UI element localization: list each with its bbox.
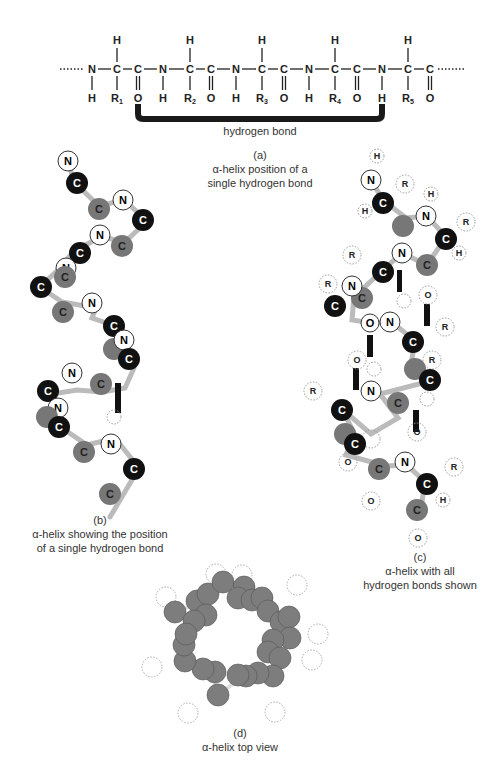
svg-text:C: C (404, 63, 412, 75)
caption-d: (d) α-helix top view (160, 726, 320, 754)
svg-text:O: O (414, 533, 421, 543)
svg-text:H: H (258, 34, 266, 46)
svg-text:C: C (338, 404, 346, 416)
svg-text:O: O (367, 496, 374, 506)
hydrogen-bond-bracket (138, 104, 382, 119)
svg-text:C: C (379, 266, 387, 278)
svg-text:R: R (349, 250, 356, 260)
svg-text:N: N (348, 280, 356, 292)
svg-text:N: N (305, 63, 313, 75)
svg-text:C: C (73, 177, 81, 189)
svg-text:C: C (44, 385, 52, 397)
svg-text:C: C (113, 63, 121, 75)
svg-text:H: H (456, 248, 463, 258)
svg-text:C: C (413, 504, 421, 516)
alpha-helix-figure: N C C N C C N C N C C C N C N C C N C N … (0, 0, 499, 783)
svg-text:O: O (426, 92, 435, 104)
svg-text:O: O (280, 92, 289, 104)
svg-text:R1: R1 (111, 92, 123, 105)
svg-text:H: H (88, 92, 96, 104)
caption-a: (a) α-helix position of a single hydroge… (170, 148, 350, 190)
svg-text:C: C (331, 300, 339, 312)
svg-text:H: H (232, 92, 240, 104)
svg-text:N: N (68, 367, 76, 379)
svg-text:N: N (96, 229, 104, 241)
svg-text:C: C (118, 240, 126, 252)
svg-text:N: N (119, 194, 127, 206)
svg-text:C: C (37, 281, 45, 293)
svg-text:R: R (429, 355, 436, 365)
svg-text:C: C (134, 63, 142, 75)
helix-top-view (142, 564, 328, 723)
svg-text:N: N (401, 456, 409, 468)
svg-text:C: C (394, 397, 402, 409)
svg-text:H: H (305, 92, 313, 104)
chain-atom: N (88, 63, 96, 75)
svg-text:H: H (113, 34, 121, 46)
svg-text:N: N (398, 247, 406, 259)
svg-text:C: C (331, 63, 339, 75)
svg-text:N: N (378, 63, 386, 75)
svg-text:H: H (159, 92, 167, 104)
svg-text:C: C (95, 203, 103, 215)
svg-text:C: C (423, 478, 431, 490)
svg-text:O: O (353, 92, 362, 104)
svg-text:C: C (442, 233, 450, 245)
svg-text:O: O (344, 457, 351, 467)
svg-text:H: H (378, 92, 386, 104)
svg-text:O: O (413, 427, 420, 437)
svg-text:C: C (207, 63, 215, 75)
svg-text:C: C (55, 421, 63, 433)
svg-text:R: R (402, 179, 409, 189)
svg-text:R2: R2 (184, 92, 196, 105)
svg-text:N: N (367, 174, 375, 186)
hydrogen-bond-label: hydrogen bond (200, 124, 320, 138)
svg-text:H: H (331, 34, 339, 46)
svg-text:C: C (110, 320, 118, 332)
svg-text:N: N (88, 297, 96, 309)
svg-text:C: C (351, 438, 359, 450)
svg-text:R5: R5 (402, 92, 414, 105)
svg-text:R4: R4 (329, 92, 341, 105)
svg-text:N: N (159, 63, 167, 75)
svg-text:N: N (386, 316, 394, 328)
svg-text:C: C (97, 378, 105, 390)
svg-text:R: R (310, 386, 317, 396)
svg-text:C: C (426, 374, 434, 386)
svg-text:C: C (80, 446, 88, 458)
svg-text:R: R (442, 322, 449, 332)
svg-text:H: H (404, 34, 412, 46)
svg-text:C: C (379, 197, 387, 209)
svg-text:O: O (207, 92, 216, 104)
svg-text:C: C (353, 63, 361, 75)
svg-text:C: C (409, 336, 417, 348)
svg-text:H: H (374, 151, 381, 161)
svg-text:O: O (134, 92, 143, 104)
svg-text:N: N (367, 385, 375, 397)
svg-text:N: N (232, 63, 240, 75)
svg-text:C: C (139, 214, 147, 226)
svg-text:H: H (428, 189, 435, 199)
svg-text:C: C (76, 247, 84, 259)
svg-text:C: C (258, 63, 266, 75)
svg-text:H: H (362, 206, 369, 216)
svg-text:C: C (375, 463, 383, 475)
svg-text:H: H (186, 34, 194, 46)
helix-b: N C C N C C N C N C C C N C N C C N C N … (30, 151, 154, 517)
helix-c: N C N C C N C C C N O N C C N C C C C N … (304, 149, 475, 547)
svg-text:N: N (107, 438, 115, 450)
svg-text:C: C (59, 306, 67, 318)
svg-text:N: N (120, 334, 128, 346)
svg-text:C: C (106, 488, 114, 500)
caption-b: (b) α-helix showing the position of a si… (10, 513, 190, 555)
svg-text:C: C (426, 63, 434, 75)
svg-text:C: C (280, 63, 288, 75)
svg-text:C: C (125, 353, 133, 365)
svg-text:R: R (451, 462, 458, 472)
svg-text:C: C (61, 271, 69, 283)
svg-text:H: H (440, 495, 447, 505)
svg-text:R: R (325, 279, 332, 289)
svg-text:N: N (64, 155, 72, 167)
svg-text:O: O (424, 290, 431, 300)
svg-text:C: C (186, 63, 194, 75)
